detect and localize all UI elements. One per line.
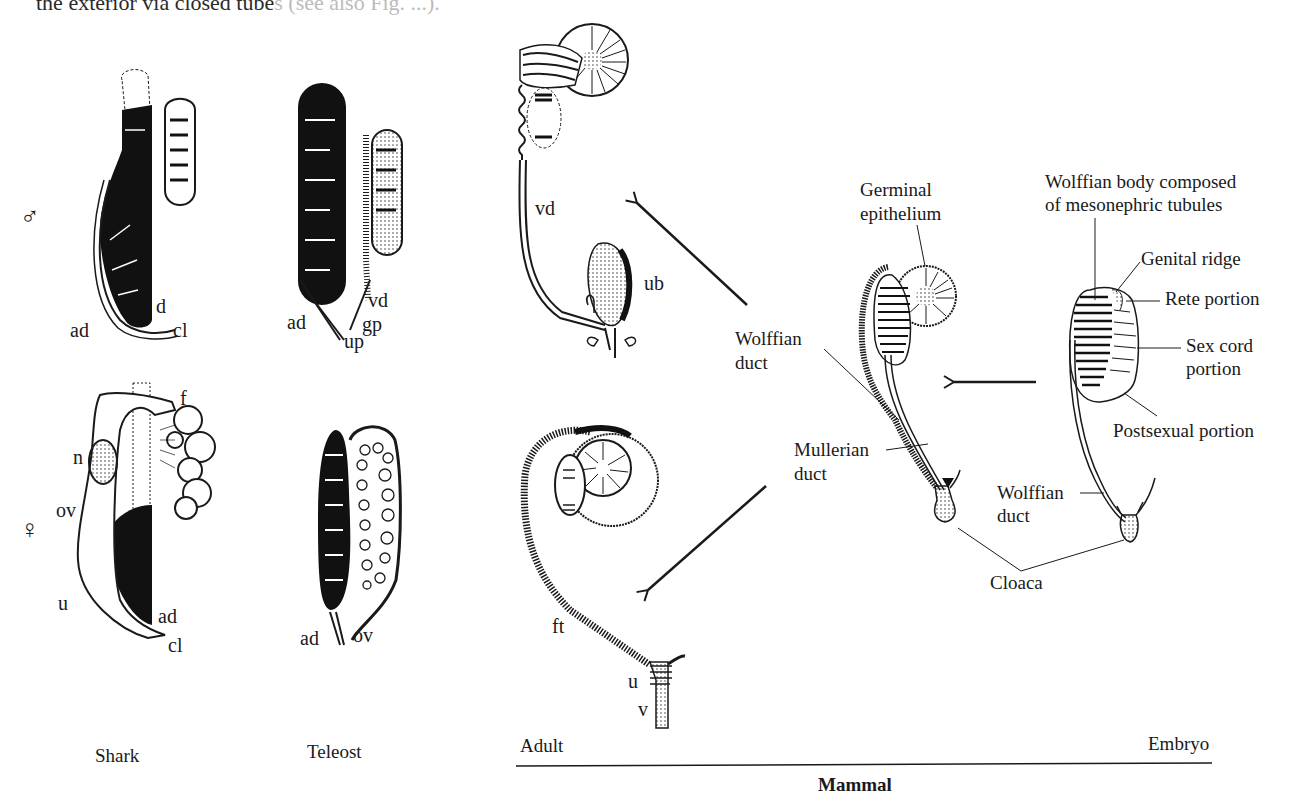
label-wolffian-body: Wolffian body composed xyxy=(1045,171,1237,192)
female-symbol: ♀ xyxy=(20,515,40,544)
shark-female-label-ov: ov xyxy=(56,499,76,521)
shark-male-label-ad: ad xyxy=(70,319,89,341)
shark-female-label-cl: cl xyxy=(168,634,183,656)
teleost-female-label-ov: ov xyxy=(353,624,373,646)
shark-male-label-d: d xyxy=(156,295,166,317)
shark-male-diagram xyxy=(94,70,195,339)
mammal-adult-label-vd: vd xyxy=(535,197,555,219)
label-mesonephric-tubules: of mesonephric tubules xyxy=(1045,194,1222,215)
label-wolffian-duct-embryo-2: duct xyxy=(997,505,1030,526)
mammal-adult-label-v: v xyxy=(638,698,648,720)
mammal-adult-label-u: u xyxy=(628,670,638,692)
label-cloaca: Cloaca xyxy=(990,572,1043,593)
teleost-male-label-up: up xyxy=(344,330,364,353)
label-mullerian-duct-2: duct xyxy=(794,463,827,484)
label-postsexual-portion: Postsexual portion xyxy=(1113,420,1254,441)
label-mammal: Mammal xyxy=(818,774,892,795)
column-label-shark: Shark xyxy=(95,745,140,766)
shark-male-label-cl: cl xyxy=(173,319,188,341)
leader-cloaca xyxy=(958,528,1124,571)
teleost-female-label-ad: ad xyxy=(300,627,319,649)
teleost-male-label-vd: vd xyxy=(368,289,388,311)
label-epithelium: epithelium xyxy=(860,203,941,224)
label-wolffian-duct-middle: Wolffian xyxy=(735,328,802,349)
shark-female-label-u: u xyxy=(58,592,68,614)
mammal-embryo-diagram xyxy=(1070,288,1155,542)
label-embryo: Embryo xyxy=(1148,733,1209,754)
shark-female-label-ad: ad xyxy=(158,605,177,627)
shark-female-label-f: f xyxy=(180,387,187,409)
label-rete-portion: Rete portion xyxy=(1165,288,1260,309)
label-mullerian-duct: Mullerian xyxy=(794,439,869,460)
label-sex-cord: Sex cord xyxy=(1186,335,1254,356)
label-genital-ridge: Genital ridge xyxy=(1141,248,1241,269)
leader-postsexual xyxy=(1124,393,1157,416)
teleost-male-label-gp: gp xyxy=(362,313,382,336)
mammal-adult-male-diagram xyxy=(519,24,636,358)
leader-genital-ridge xyxy=(1116,262,1140,292)
mammal-indifferent-diagram xyxy=(862,266,960,522)
teleost-female-diagram xyxy=(318,427,400,645)
arrow-to-adult-female xyxy=(648,486,766,590)
shark-female-diagram xyxy=(78,383,215,638)
teleost-male-label-ad: ad xyxy=(287,311,306,333)
mammal-adult-label-ub: ub xyxy=(644,272,664,294)
urogenital-comparison-figure: ♂ ♀ d ad cl vd ad gp xyxy=(0,0,1312,797)
male-symbol: ♂ xyxy=(20,202,40,231)
shark-female-label-n: n xyxy=(73,446,83,468)
label-wolffian-duct-embryo: Wolffian xyxy=(997,482,1064,503)
column-label-teleost: Teleost xyxy=(307,741,362,762)
label-wolffian-duct-middle-2: duct xyxy=(735,352,768,373)
label-sex-cord-portion: portion xyxy=(1186,358,1241,379)
leader-germinal xyxy=(917,225,925,266)
adult-embryo-axis-line xyxy=(516,763,1212,766)
label-germinal: Germinal xyxy=(860,179,932,200)
mammal-adult-label-ft: ft xyxy=(552,615,565,637)
label-adult: Adult xyxy=(520,735,564,756)
